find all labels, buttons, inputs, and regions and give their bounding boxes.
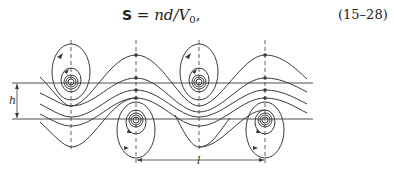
saddle-point-dots bbox=[134, 53, 267, 100]
h-label: h bbox=[9, 94, 16, 107]
vortex-street-figure: h l bbox=[0, 0, 394, 178]
streamlines bbox=[40, 55, 307, 147]
vortex-bottom-2 bbox=[246, 102, 284, 158]
l-label: l bbox=[197, 154, 201, 167]
vortex-bottom-1 bbox=[117, 102, 155, 158]
